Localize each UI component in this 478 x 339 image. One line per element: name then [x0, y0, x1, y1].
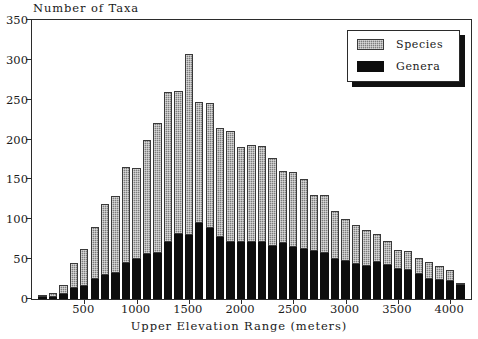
y-tick-label: 350 [6, 13, 28, 27]
bar-segment-species [132, 168, 140, 260]
bar-segment-genera [247, 242, 255, 299]
bar-segment-species [174, 91, 182, 234]
legend-swatch-species-icon [357, 39, 384, 50]
bar-segment-species [310, 195, 318, 252]
bar-segment-species [435, 266, 443, 280]
bar-segment-species [300, 179, 308, 248]
bar-segment-species [362, 230, 370, 267]
bar-segment-species [446, 270, 454, 282]
bar [456, 283, 464, 299]
bar-segment-genera [268, 246, 276, 299]
bar-segment-genera [383, 265, 391, 299]
bar-segment-genera [122, 263, 130, 299]
bar-segment-genera [91, 279, 99, 299]
x-tick-label: 2000 [225, 302, 254, 316]
bar-segment-genera [101, 275, 109, 299]
x-tick-label: 500 [72, 302, 94, 316]
bar-segment-genera [331, 259, 339, 299]
bar-segment-genera [206, 228, 214, 299]
x-tick-label: 1500 [173, 302, 202, 316]
bar [132, 167, 140, 299]
bar-segment-species [70, 263, 78, 288]
bar-segment-genera [341, 261, 349, 299]
bar [247, 145, 255, 299]
y-tick [26, 59, 32, 60]
x-tick-label: 3000 [330, 302, 359, 316]
bar-segment-species [195, 102, 203, 223]
bar-segment-species [164, 92, 172, 242]
bar-segment-species [415, 258, 423, 274]
bar [122, 167, 130, 299]
bar [289, 172, 297, 299]
bar-segment-species [289, 172, 297, 247]
bar-segment-genera [174, 234, 182, 299]
bar [101, 204, 109, 299]
bar [352, 225, 360, 299]
bar-segment-genera [352, 264, 360, 299]
bar-segment-species [425, 262, 433, 279]
y-tick [26, 178, 32, 179]
bar [383, 241, 391, 299]
bar [300, 179, 308, 299]
bar [59, 285, 67, 299]
y-tick-label: 250 [6, 93, 28, 107]
bar-segment-species [258, 146, 266, 242]
bar [49, 293, 57, 299]
bar-segment-genera [362, 266, 370, 299]
bar-segment-species [247, 145, 255, 242]
bar-segment-species [404, 251, 412, 270]
bar-segment-genera [435, 280, 443, 299]
bar-segment-genera [216, 237, 224, 299]
bar [435, 266, 443, 299]
bar-segment-species [237, 147, 245, 242]
bar [185, 54, 193, 299]
bar-segment-species [122, 167, 130, 263]
bar [174, 91, 182, 299]
legend-item-genera: Genera [357, 60, 440, 73]
bar-segment-genera [310, 251, 318, 299]
bar-segment-genera [226, 242, 234, 299]
x-tick-label: 2500 [278, 302, 307, 316]
x-tick-label: 4000 [434, 302, 463, 316]
bar-segment-species [320, 195, 328, 252]
bar-segment-genera [279, 243, 287, 299]
bar-segment-genera [258, 242, 266, 299]
bar-segment-genera [300, 249, 308, 299]
bar-segment-genera [446, 281, 454, 299]
bar [80, 249, 88, 299]
bar [143, 140, 151, 299]
y-tick-label: 0 [21, 292, 28, 306]
x-tick-label: 3500 [382, 302, 411, 316]
bar [415, 258, 423, 299]
y-tick [26, 258, 32, 259]
y-tick [26, 19, 32, 20]
bar-segment-genera [38, 297, 46, 299]
bar-segment-species [226, 131, 234, 243]
legend-item-species: Species [357, 38, 443, 51]
bar-segment-genera [289, 247, 297, 299]
bar-segment-species [153, 123, 161, 253]
bar [362, 230, 370, 299]
x-axis-labels: 5001000150020002500300035004000 [31, 302, 472, 318]
bar-segment-genera [59, 294, 67, 299]
bar-segment-genera [415, 274, 423, 300]
bar [206, 103, 214, 299]
bar-segment-genera [164, 242, 172, 299]
y-tick-label: 150 [6, 172, 28, 186]
bar-segment-species [383, 241, 391, 265]
bar-segment-genera [132, 259, 140, 299]
bar [70, 263, 78, 299]
bar [153, 123, 161, 299]
bar-segment-genera [185, 235, 193, 299]
bar [394, 250, 402, 299]
y-tick [26, 298, 32, 299]
bar-segment-genera [425, 279, 433, 299]
bar-segment-genera [404, 270, 412, 299]
y-axis-title: Number of Taxa [33, 1, 139, 15]
y-tick [26, 139, 32, 140]
bar-segment-species [101, 204, 109, 275]
legend: Species Genera [347, 30, 460, 82]
bar-segment-genera [143, 254, 151, 299]
bar [164, 92, 172, 299]
y-tick [26, 218, 32, 219]
